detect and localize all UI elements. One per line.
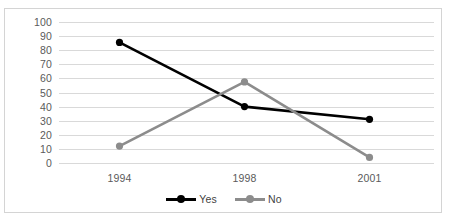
legend-item[interactable]: No (235, 194, 282, 205)
data-point (241, 103, 248, 110)
plot-area: 1009080706050403020100 199419982001 YesN… (5, 9, 443, 214)
chart-legend: YesNo (5, 194, 443, 205)
legend-label: No (268, 194, 282, 205)
data-point (116, 39, 123, 46)
data-point (116, 143, 123, 150)
legend-item[interactable]: Yes (166, 194, 217, 205)
data-point (241, 78, 248, 85)
legend-marker-icon (235, 194, 265, 205)
x-axis-tick-label: 1998 (215, 173, 275, 184)
x-axis-tick-label: 2001 (340, 173, 400, 184)
series-no (116, 78, 373, 161)
x-axis-tick-label: 1994 (90, 173, 150, 184)
legend-marker-icon (166, 194, 196, 205)
chart-frame: 1009080706050403020100 199419982001 YesN… (4, 8, 442, 213)
data-point (366, 116, 373, 123)
legend-label: Yes (199, 194, 217, 205)
data-point (366, 154, 373, 161)
series-line (120, 82, 370, 157)
